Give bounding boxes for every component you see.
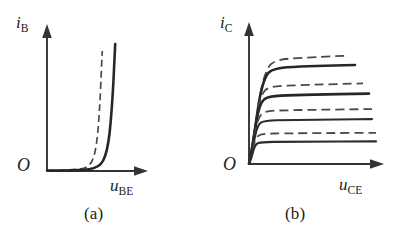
panel-b-x-axis <box>249 159 384 169</box>
panel-a-y-axis <box>42 24 52 171</box>
panel-a-x-axis-label: uBE <box>110 177 133 194</box>
panel-b-caption: (b) <box>285 205 305 222</box>
panel-b-output-curve-5-dashed <box>249 109 372 163</box>
panel-b-output-characteristics: iC uCE O (b) <box>202 0 404 235</box>
panel-b-output-curve-4-solid <box>249 94 369 164</box>
panel-a-input-characteristics: iB uBE O (a) <box>0 0 202 235</box>
panel-b-plot <box>202 0 404 235</box>
panel-a-solid-input-curve <box>47 44 115 171</box>
panel-a-caption: (a) <box>84 205 103 222</box>
figure-transistor-characteristics: iB uBE O (a) <box>0 0 404 235</box>
panel-a-plot <box>0 0 202 235</box>
panel-b-output-curve-8-solid <box>249 141 376 163</box>
panel-b-origin-label: O <box>223 155 236 173</box>
panel-a-origin-label: O <box>17 156 30 174</box>
panel-a-y-axis-label: iB <box>16 14 29 31</box>
panel-b-x-axis-label: uCE <box>339 176 362 193</box>
panel-b-y-axis-label: iC <box>220 14 233 31</box>
panel-b-output-curve-7-dashed <box>249 133 376 164</box>
panel-a-dashed-input-curve <box>47 51 102 171</box>
panel-b-output-curve-2-solid <box>249 65 355 164</box>
